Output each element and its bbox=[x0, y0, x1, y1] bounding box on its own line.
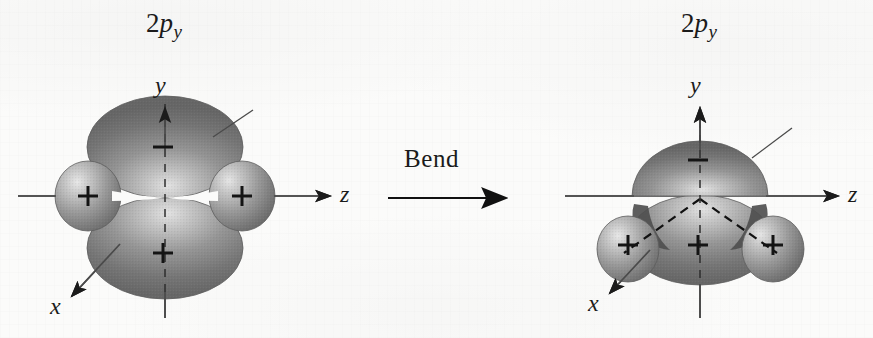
right-title-lead: 2 bbox=[681, 8, 695, 38]
left-x-axis-label: x bbox=[50, 293, 61, 320]
left-title-symbol: p bbox=[160, 8, 174, 38]
figure-canvas: 2py y z x Bend 2py y z x bbox=[0, 0, 873, 338]
right-z-axis-label: z bbox=[848, 181, 857, 208]
left-orbital-title: 2py bbox=[146, 8, 182, 43]
left-title-subscript: y bbox=[174, 21, 182, 42]
right-title-subscript: y bbox=[709, 21, 717, 42]
right-y-axis-label: y bbox=[690, 72, 701, 99]
left-title-lead: 2 bbox=[146, 8, 160, 38]
left-y-axis-label: y bbox=[155, 72, 166, 99]
right-title-symbol: p bbox=[695, 8, 709, 38]
right-leader-line bbox=[752, 128, 792, 158]
left-structure-group bbox=[18, 96, 330, 318]
right-orbital-title: 2py bbox=[681, 8, 717, 43]
bend-label: Bend bbox=[404, 145, 459, 173]
right-x-axis-label: x bbox=[588, 290, 599, 317]
left-z-axis-label: z bbox=[340, 181, 349, 208]
right-structure-group bbox=[565, 108, 838, 318]
